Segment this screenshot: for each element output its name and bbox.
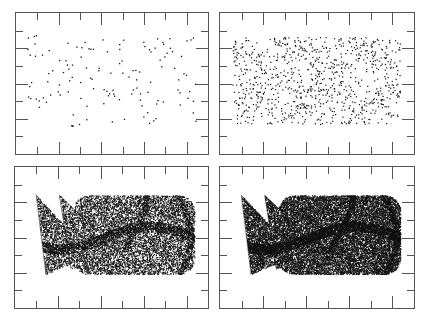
y-axis-tick	[201, 101, 208, 102]
y-axis-tick	[15, 255, 22, 256]
x-axis-tick	[285, 147, 286, 154]
y-axis-tick	[196, 238, 208, 239]
x-axis-tick	[165, 13, 166, 20]
x-axis-tick	[122, 167, 123, 174]
x-axis-tick	[144, 142, 145, 154]
x-axis-tick	[36, 301, 37, 308]
y-axis-tick	[16, 119, 28, 120]
x-axis-tick	[144, 13, 145, 25]
x-axis-tick	[123, 13, 124, 20]
x-axis-tick	[101, 13, 102, 25]
x-axis-tick	[371, 167, 372, 174]
y-axis-tick	[16, 66, 23, 67]
x-axis-tick	[37, 147, 38, 154]
x-axis-tick	[328, 147, 329, 154]
x-axis-tick	[80, 13, 81, 20]
x-axis-tick	[79, 301, 80, 308]
x-axis-tick	[349, 167, 350, 179]
x-axis-tick	[306, 13, 307, 25]
y-axis-tick	[402, 84, 414, 85]
y-axis-tick	[402, 119, 414, 120]
x-axis-tick	[328, 167, 329, 174]
x-axis-tick	[285, 167, 286, 174]
x-axis-tick	[79, 167, 80, 174]
y-axis-tick	[16, 101, 23, 102]
x-axis-tick	[349, 13, 350, 25]
scatter-panel-top-right	[219, 12, 415, 155]
y-axis-tick	[220, 255, 227, 256]
y-axis-tick	[220, 202, 232, 203]
y-axis-tick	[196, 202, 208, 203]
x-axis-tick	[59, 142, 60, 154]
x-axis-tick	[144, 167, 145, 179]
y-axis-tick	[407, 66, 414, 67]
x-axis-tick	[101, 167, 102, 179]
y-axis-tick	[407, 101, 414, 102]
scatter-panel-bottom-right	[219, 166, 415, 309]
y-axis-tick	[196, 48, 208, 49]
x-axis-tick	[187, 13, 188, 25]
x-axis-tick	[242, 147, 243, 154]
x-axis-tick	[123, 147, 124, 154]
y-axis-tick	[16, 136, 23, 137]
x-axis-tick	[36, 167, 37, 174]
x-axis-tick	[58, 296, 59, 308]
x-axis-tick	[263, 296, 264, 308]
y-axis-tick	[16, 84, 28, 85]
y-axis-tick	[220, 185, 227, 186]
x-axis-tick	[165, 167, 166, 174]
y-axis-tick	[402, 48, 414, 49]
y-axis-tick	[407, 136, 414, 137]
x-axis-tick	[37, 13, 38, 20]
x-axis-tick	[306, 167, 307, 179]
y-axis-tick	[402, 238, 414, 239]
y-axis-tick	[402, 202, 414, 203]
y-axis-tick	[220, 31, 227, 32]
y-axis-tick	[220, 290, 227, 291]
y-axis-tick	[201, 31, 208, 32]
y-axis-tick	[16, 31, 23, 32]
x-axis-tick	[187, 167, 188, 179]
x-axis-tick	[242, 13, 243, 20]
y-axis-tick	[407, 185, 414, 186]
y-axis-tick	[407, 31, 414, 32]
x-axis-tick	[263, 167, 264, 179]
x-axis-tick	[144, 296, 145, 308]
y-axis-tick	[201, 66, 208, 67]
y-axis-tick	[220, 136, 227, 137]
x-axis-tick	[392, 13, 393, 25]
x-axis-tick	[349, 142, 350, 154]
scatter-canvas	[15, 167, 208, 308]
x-axis-tick	[263, 142, 264, 154]
x-axis-tick	[371, 13, 372, 20]
y-axis-tick	[220, 220, 227, 221]
x-axis-tick	[242, 301, 243, 308]
x-axis-tick	[392, 296, 393, 308]
x-axis-tick	[328, 301, 329, 308]
y-axis-tick	[201, 136, 208, 137]
y-axis-tick	[196, 84, 208, 85]
y-axis-tick	[15, 238, 27, 239]
y-axis-tick	[220, 84, 232, 85]
x-axis-tick	[392, 167, 393, 179]
x-axis-tick	[242, 167, 243, 174]
x-axis-tick	[58, 167, 59, 179]
x-axis-tick	[263, 13, 264, 25]
y-axis-tick	[15, 220, 22, 221]
y-axis-tick	[16, 48, 28, 49]
y-axis-tick	[15, 290, 22, 291]
y-axis-tick	[15, 273, 27, 274]
x-axis-tick	[187, 296, 188, 308]
scatter-canvas	[16, 13, 208, 154]
x-axis-tick	[101, 296, 102, 308]
y-axis-tick	[201, 220, 208, 221]
x-axis-tick	[306, 296, 307, 308]
scatter-canvas	[220, 13, 414, 154]
x-axis-tick	[165, 301, 166, 308]
y-axis-tick	[407, 220, 414, 221]
y-axis-tick	[201, 290, 208, 291]
x-axis-tick	[59, 13, 60, 25]
x-axis-tick	[371, 301, 372, 308]
x-axis-tick	[165, 147, 166, 154]
y-axis-tick	[220, 48, 232, 49]
